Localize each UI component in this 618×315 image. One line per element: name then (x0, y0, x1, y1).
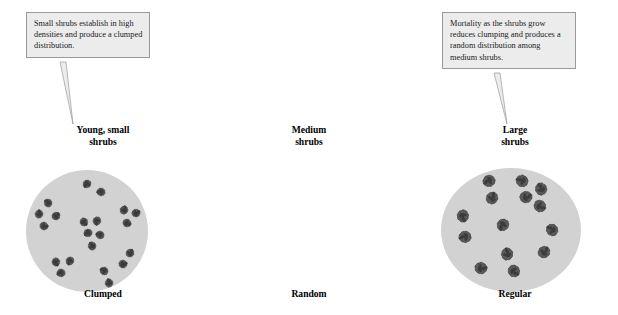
plot-heading-regular: Large shrubs (412, 124, 618, 149)
shrub-distribution-figure: Small shrubs establish in high densities… (0, 0, 618, 315)
plot-heading-line1: Young, small (0, 124, 206, 136)
shrub-marker (95, 186, 108, 199)
plot-label-regular: Regular (412, 288, 618, 299)
plot-label-clumped: Clumped (0, 288, 206, 299)
plot-heading-line1: Medium (206, 124, 412, 136)
plot-heading-line2: shrubs (0, 136, 206, 148)
shrub-marker (83, 180, 92, 189)
shrub-marker (121, 217, 132, 228)
shrub-marker (33, 208, 46, 221)
panel-regular: Competition enforces a regular distribut… (412, 0, 618, 315)
panel-clumped: Small shrubs establish in high densities… (0, 0, 206, 315)
quadrat-circle-clumped (26, 170, 148, 292)
plot-heading-line1: Large (412, 124, 618, 136)
shrub-marker (51, 211, 61, 221)
plot-label-random: Random (206, 288, 412, 299)
shrub-marker (55, 267, 67, 279)
plot-heading-line2: shrubs (412, 136, 618, 148)
shrub-marker (86, 240, 98, 252)
plot-heading-random: Medium shrubs (206, 124, 412, 149)
shrub-marker (94, 229, 106, 241)
panel-random: Mortality as the shrubs grow reduces clu… (206, 0, 412, 315)
plot-heading-clumped: Young, small shrubs (0, 124, 206, 149)
shrub-marker (43, 198, 53, 208)
callout-text: Small shrubs establish in high densities… (34, 18, 143, 52)
shrub-marker (118, 204, 130, 216)
plot-heading-line2: shrubs (206, 136, 412, 148)
shrub-marker (38, 220, 51, 233)
shrub-marker (99, 266, 110, 277)
callout-pointer (60, 62, 86, 124)
shrub-marker (91, 215, 103, 227)
shrub-marker (130, 207, 142, 219)
shrub-marker (117, 258, 130, 271)
callout-box-clumped: Small shrubs establish in high densities… (26, 12, 150, 58)
shrub-marker (64, 255, 75, 266)
shrub-marker (79, 217, 90, 228)
shrub-marker (82, 227, 93, 238)
shrub-marker (125, 248, 135, 258)
